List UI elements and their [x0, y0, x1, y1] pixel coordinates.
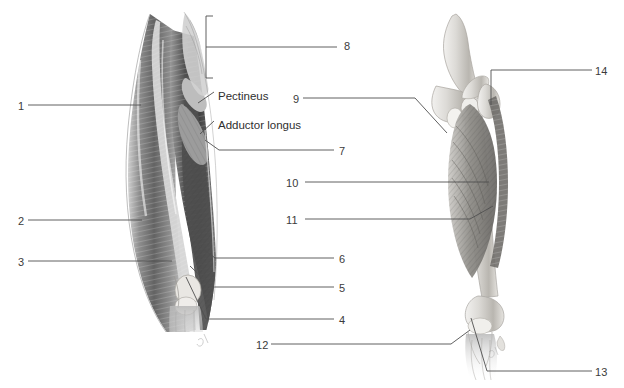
- numbered-label-5[interactable]: 5: [339, 283, 345, 294]
- left-thigh-illustration: [128, 10, 218, 366]
- numbered-label-14[interactable]: 14: [595, 66, 608, 77]
- leader-line-7: [205, 140, 334, 150]
- leader-line-12: [271, 330, 470, 344]
- right-hip-femur-illustration: [432, 14, 508, 382]
- artist-mark: [197, 334, 208, 346]
- numbered-label-7[interactable]: 7: [339, 146, 345, 157]
- leader-line-9: [303, 98, 447, 133]
- figure-canvas: [0, 0, 624, 388]
- leader-line-14: [491, 70, 592, 105]
- muscle-label-adductor-longus[interactable]: Adductor longus: [218, 120, 301, 132]
- numbered-label-8[interactable]: 8: [344, 41, 350, 52]
- anatomical-figure: 1 2 3 4 5 6 7 8 9 10 11 12 13 14 Pectine…: [0, 0, 624, 388]
- numbered-label-6[interactable]: 6: [339, 254, 345, 265]
- numbered-label-4[interactable]: 4: [339, 315, 345, 326]
- numbered-label-3[interactable]: 3: [18, 257, 24, 268]
- numbered-label-10[interactable]: 10: [286, 178, 299, 189]
- numbered-label-13[interactable]: 13: [595, 367, 608, 378]
- numbered-label-1[interactable]: 1: [18, 101, 24, 112]
- numbered-label-2[interactable]: 2: [18, 216, 24, 227]
- numbered-label-11[interactable]: 11: [286, 215, 298, 226]
- muscle-label-pectineus[interactable]: Pectineus: [218, 91, 269, 103]
- numbered-label-12[interactable]: 12: [256, 340, 269, 351]
- numbered-label-9[interactable]: 9: [293, 94, 299, 105]
